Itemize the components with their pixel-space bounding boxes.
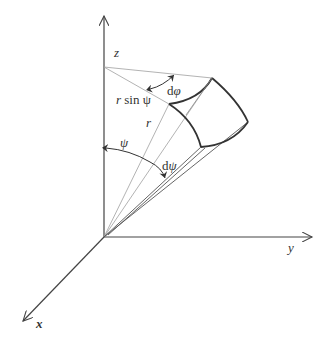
d-psi-label: dψ (162, 158, 178, 173)
y-axis-label: y (286, 240, 294, 255)
radius-line-mid (108, 148, 205, 235)
x-axis-label: x (35, 316, 43, 331)
d-psi-label-sym: ψ (169, 158, 178, 173)
psi-arc (106, 148, 150, 162)
element-bottom-edge (201, 122, 248, 147)
radius-line-r (104, 104, 169, 237)
r-label: r (146, 115, 152, 130)
radius-line-lower-left (104, 147, 201, 237)
psi-label: ψ (120, 135, 129, 150)
d-phi-label: dφ (167, 83, 181, 98)
d-phi-label-sym: φ (174, 83, 181, 98)
element-right-edge (212, 78, 248, 122)
r-sin-psi-label-rest: sin ψ (121, 92, 151, 107)
spherical-coordinates-diagram: z y x r sin ψ r ψ dψ dφ (0, 0, 328, 345)
r-sin-psi-label: r sin ψ (116, 92, 151, 107)
element-left-edge (169, 104, 201, 147)
z-axis-label: z (113, 45, 119, 60)
element-hidden-edge (186, 78, 212, 115)
volume-element (169, 78, 248, 147)
x-axis (23, 237, 104, 321)
